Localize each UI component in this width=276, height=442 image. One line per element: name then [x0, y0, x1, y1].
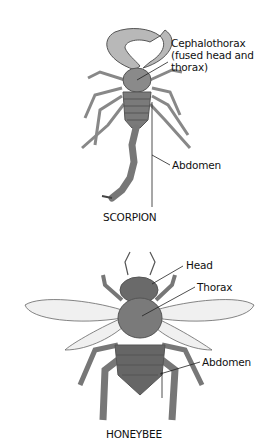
label-cephalothorax-line3: thorax) — [171, 61, 254, 73]
label-honeybee-abdomen: Abdomen — [202, 356, 251, 368]
label-cephalothorax: Cephalothorax (fused head and thorax) — [171, 37, 254, 73]
honeybee-illustration — [25, 252, 254, 420]
label-cephalothorax-line2: (fused head and — [171, 49, 254, 61]
scorpion-title: SCORPION — [103, 211, 157, 223]
label-thorax: Thorax — [197, 281, 232, 293]
label-head: Head — [186, 259, 213, 271]
label-scorpion-abdomen: Abdomen — [172, 159, 221, 171]
label-cephalothorax-line1: Cephalothorax — [171, 37, 254, 49]
honeybee-title: HONEYBEE — [106, 428, 162, 440]
